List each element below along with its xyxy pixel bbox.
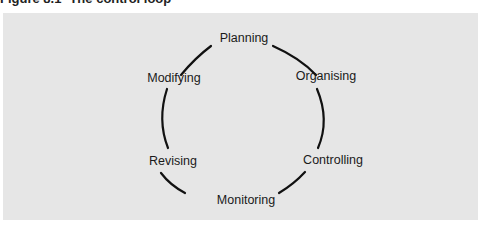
node-planning: Planning [220, 31, 269, 45]
arc-organising-controlling [317, 89, 324, 148]
node-controlling: Controlling [303, 153, 363, 167]
node-modifying: Modifying [147, 71, 201, 85]
node-organising: Organising [296, 69, 356, 83]
arc-revising-modifying [162, 89, 168, 148]
node-revising: Revising [149, 154, 197, 168]
node-monitoring: Monitoring [217, 193, 275, 207]
arc-controlling-monitoring [279, 172, 305, 193]
arc-monitoring-revising [161, 173, 185, 193]
